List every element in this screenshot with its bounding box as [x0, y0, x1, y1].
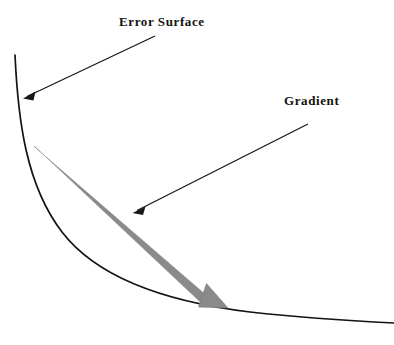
- gradient-leader-arrowhead: [133, 207, 146, 216]
- error-surface-label: Error Surface: [119, 15, 205, 28]
- error-surface-leader: [23, 36, 155, 100]
- gradient-leader-line: [137, 124, 308, 211]
- error-surface-leader-line: [27, 36, 155, 97]
- gradient-arrow-head: [199, 284, 229, 309]
- gradient-leader: [133, 124, 309, 215]
- gradient-arrow: [34, 146, 228, 308]
- error-surface-leader-arrowhead: [23, 92, 36, 101]
- error-surface-figure: Error Surface Gradient: [0, 0, 394, 345]
- gradient-label: Gradient: [284, 94, 339, 107]
- gradient-arrow-shaft: [34, 146, 210, 306]
- figure-canvas: [0, 0, 394, 345]
